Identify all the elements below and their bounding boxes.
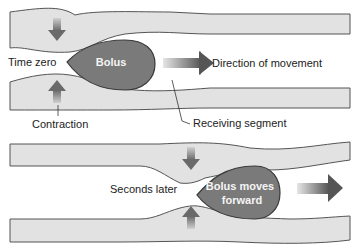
contraction-label: Contraction [32, 118, 88, 130]
time-zero-label: Time zero [8, 56, 57, 68]
upper-intestinal-wall-2 [10, 142, 350, 183]
forward-arrow-icon [297, 174, 343, 202]
direction-label: Direction of movement [212, 57, 322, 69]
bolus-label-line2: forward [222, 194, 262, 206]
top-panel: Bolus Direction of movement Time zero Co… [8, 8, 350, 130]
bolus-label: Bolus [96, 56, 127, 68]
lower-intestinal-wall-2 [10, 206, 350, 243]
peristalsis-diagram: Bolus Direction of movement Time zero Co… [0, 0, 353, 249]
bolus-label-line1: Bolus moves [206, 180, 274, 192]
seconds-later-label: Seconds later [110, 183, 178, 195]
receiving-segment-label: Receiving segment [193, 117, 287, 129]
bottom-panel: Bolus moves forward Seconds later [10, 142, 350, 243]
direction-arrow-icon [163, 51, 214, 75]
